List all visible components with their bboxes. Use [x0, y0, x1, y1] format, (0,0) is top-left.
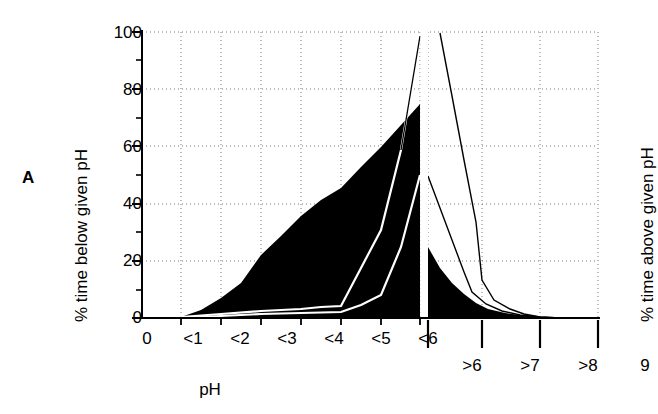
x-boundary-ticks — [181, 318, 420, 325]
x-upper-ticks — [428, 320, 598, 348]
panel-gap — [421, 30, 429, 318]
series-below-filled-area — [142, 104, 420, 318]
series-above-line-upper — [440, 33, 560, 318]
